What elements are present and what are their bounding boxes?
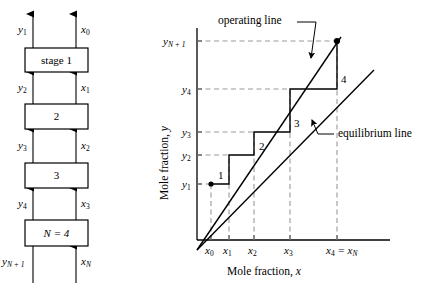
projection-guides bbox=[197, 41, 337, 240]
x-axis-title-base: Mole fraction, bbox=[227, 265, 293, 277]
axis-ticks bbox=[197, 41, 337, 240]
stream-label-y3-sub: 3 bbox=[23, 144, 27, 153]
stream-label-x2: x2 bbox=[81, 140, 90, 151]
stream-label-x3: x3 bbox=[81, 198, 90, 209]
x-tick-label-x3-sub: 3 bbox=[289, 249, 293, 258]
y-tick-label-y1: y1 bbox=[182, 179, 191, 190]
equilibrium-line bbox=[197, 70, 374, 250]
stream-label-x3-sub: 3 bbox=[86, 202, 90, 211]
x-tick-label-x4-eqvar: = x bbox=[337, 244, 352, 256]
step-number-4: 4 bbox=[341, 74, 347, 85]
operating-line-leader bbox=[297, 22, 316, 58]
stream-label-xN: xN bbox=[81, 256, 91, 267]
stream-label-y1-sub: 1 bbox=[23, 28, 27, 37]
x-axis-title: Mole fraction, x bbox=[227, 266, 301, 278]
y-tick-label-y1-sub: 1 bbox=[187, 183, 191, 192]
stream-label-y4-sub: 4 bbox=[23, 202, 27, 211]
stream-label-y2-sub: 2 bbox=[23, 86, 27, 95]
stream-label-y4: y4 bbox=[18, 198, 27, 209]
x-tick-label-x4-sub: 4 bbox=[331, 249, 335, 258]
x-tick-label-x4: x4 = xN bbox=[326, 245, 357, 256]
operating-line-annotation: operating line bbox=[218, 15, 282, 27]
figure-root: y1 y2 y3 y4 yN + 1 x0 x1 x2 x3 xN stage … bbox=[0, 0, 439, 290]
stream-label-y3: y3 bbox=[18, 140, 27, 151]
stage-label-1: stage 1 bbox=[25, 55, 88, 66]
stage-label-4: N = 4 bbox=[25, 228, 88, 239]
step-number-3: 3 bbox=[294, 118, 300, 129]
operating-line bbox=[197, 37, 341, 250]
x-tick-label-x1: x1 bbox=[223, 245, 232, 256]
stream-label-y1: y1 bbox=[18, 24, 27, 35]
stream-label-y2: y2 bbox=[18, 82, 27, 93]
step-number-1: 1 bbox=[218, 170, 224, 181]
y-axis-title-var: y bbox=[158, 126, 170, 131]
y-tick-label-y4-sub: 4 bbox=[187, 88, 191, 97]
y-tick-label-y3-sub: 3 bbox=[187, 131, 191, 140]
y-tick-label-y3: y3 bbox=[182, 127, 191, 138]
x-tick-label-x3: x3 bbox=[284, 245, 293, 256]
y-tick-label-yN1-sub: N + 1 bbox=[168, 40, 186, 49]
y-axis-title: Mole fraction, y bbox=[158, 126, 170, 200]
stream-label-xN-sub: N bbox=[86, 260, 91, 269]
y-tick-label-yN1: yN + 1 bbox=[163, 36, 185, 47]
marker-bottom-point bbox=[208, 181, 213, 186]
stream-label-yN1: yN + 1 bbox=[2, 256, 24, 267]
staircase-steps bbox=[211, 41, 337, 184]
stream-label-x1-sub: 1 bbox=[86, 86, 90, 95]
x-tick-label-x1-sub: 1 bbox=[228, 249, 232, 258]
stage-boxes bbox=[25, 48, 88, 246]
x-axis-title-var: x bbox=[296, 265, 301, 277]
stream-label-x0-sub: 0 bbox=[86, 28, 90, 37]
step-number-2: 2 bbox=[259, 141, 265, 152]
y-tick-label-y2-sub: 2 bbox=[187, 154, 191, 163]
stage-label-3: 3 bbox=[25, 170, 88, 181]
equilibrium-line-annotation: equilibrium line bbox=[338, 128, 412, 140]
stream-label-x1: x1 bbox=[81, 82, 90, 93]
stream-label-x0: x0 bbox=[81, 24, 90, 35]
y-tick-label-y4: y4 bbox=[182, 84, 191, 95]
x-tick-label-x2-sub: 2 bbox=[253, 249, 257, 258]
figure-vector-layer bbox=[0, 0, 439, 290]
x-tick-label-x0-sub: 0 bbox=[210, 249, 214, 258]
x-tick-label-x2: x2 bbox=[248, 245, 257, 256]
y-tick-label-y2: y2 bbox=[182, 150, 191, 161]
y-axis-title-base: Mole fraction, bbox=[158, 134, 170, 200]
stream-label-x2-sub: 2 bbox=[86, 144, 90, 153]
x-tick-label-x0: x0 bbox=[205, 245, 214, 256]
marker-top-point bbox=[334, 38, 340, 44]
stream-label-yN1-sub: N + 1 bbox=[7, 260, 25, 269]
x-tick-label-x4-eqsub: N bbox=[352, 249, 357, 258]
stage-label-2: 2 bbox=[25, 111, 88, 122]
